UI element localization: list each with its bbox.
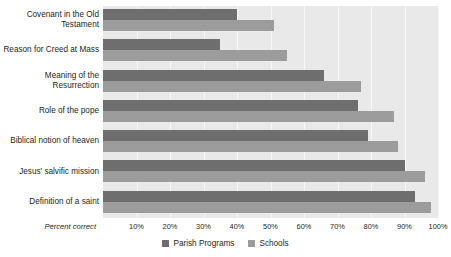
bar-parish-programs xyxy=(103,160,405,171)
bar-schools xyxy=(103,111,394,122)
x-axis-tick: 50% xyxy=(263,222,278,231)
category-label: Covenant in the OldTestament xyxy=(0,10,99,29)
legend-label: Schools xyxy=(259,239,288,248)
category-label-line: Biblical notion of heaven xyxy=(0,136,99,146)
category-label: Meaning of theResurrection xyxy=(0,71,99,90)
category-label-line: Covenant in the Old xyxy=(0,10,99,20)
category-axis: Covenant in the OldTestamentReason for C… xyxy=(0,6,99,218)
x-axis-tick: 60% xyxy=(297,222,312,231)
bar-group xyxy=(103,70,438,92)
bar-rows xyxy=(103,6,438,218)
x-axis-tick: 100% xyxy=(429,222,448,231)
category-label: Biblical notion of heaven xyxy=(0,136,99,146)
legend: Parish ProgramsSchools xyxy=(0,239,451,248)
bar-group xyxy=(103,9,438,31)
x-axis-tick: 20% xyxy=(163,222,178,231)
category-label-line: Testament xyxy=(0,20,99,30)
legend-swatch-icon xyxy=(248,240,255,247)
bar-schools xyxy=(103,81,361,92)
bar-schools xyxy=(103,50,287,61)
bar-schools xyxy=(103,20,274,31)
bar-parish-programs xyxy=(103,9,237,20)
x-axis-tick: 80% xyxy=(364,222,379,231)
bar-schools xyxy=(103,202,431,213)
bar-parish-programs xyxy=(103,130,368,141)
category-label: Role of the pope xyxy=(0,106,99,116)
category-label-line: Meaning of the xyxy=(0,71,99,81)
x-axis: 10%20%30%40%50%60%70%80%90%100% xyxy=(103,219,438,233)
bar-chart: Covenant in the OldTestamentReason for C… xyxy=(0,0,451,257)
x-axis-tick: 70% xyxy=(330,222,345,231)
x-axis-title: Percent correct xyxy=(45,222,97,231)
x-axis-tick: 90% xyxy=(397,222,412,231)
bar-group xyxy=(103,160,438,182)
category-label: Jesus' salvific mission xyxy=(0,167,99,177)
legend-swatch-icon xyxy=(162,240,169,247)
legend-item: Schools xyxy=(248,239,288,248)
bar-group xyxy=(103,39,438,61)
category-label-line: Reason for Creed at Mass xyxy=(0,45,99,55)
plot-area xyxy=(103,6,438,218)
bar-parish-programs xyxy=(103,39,220,50)
category-label-line: Jesus' salvific mission xyxy=(0,167,99,177)
bar-parish-programs xyxy=(103,70,324,81)
category-label-line: Definition of a saint xyxy=(0,197,99,207)
bar-schools xyxy=(103,171,425,182)
legend-item: Parish Programs xyxy=(162,239,234,248)
legend-label: Parish Programs xyxy=(173,239,234,248)
x-axis-tick: 10% xyxy=(129,222,144,231)
category-label: Reason for Creed at Mass xyxy=(0,45,99,55)
bar-group xyxy=(103,100,438,122)
bar-schools xyxy=(103,141,398,152)
bar-parish-programs xyxy=(103,191,415,202)
category-label-line: Role of the pope xyxy=(0,106,99,116)
gridline xyxy=(438,6,439,218)
x-axis-tick: 40% xyxy=(230,222,245,231)
bar-parish-programs xyxy=(103,100,358,111)
category-label-line: Resurrection xyxy=(0,81,99,91)
bar-group xyxy=(103,191,438,213)
x-axis-tick: 30% xyxy=(196,222,211,231)
category-label: Definition of a saint xyxy=(0,197,99,207)
bar-group xyxy=(103,130,438,152)
